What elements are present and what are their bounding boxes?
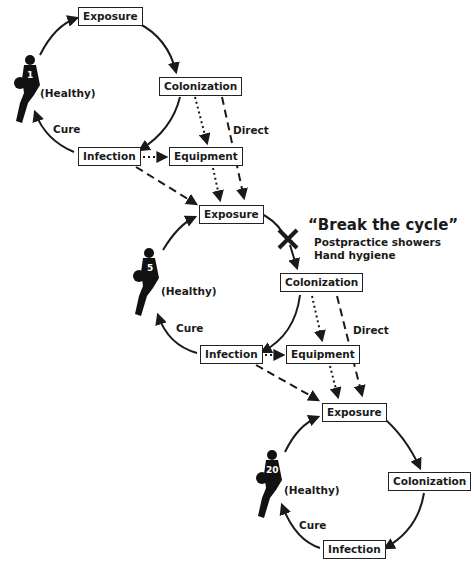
exposure-box: Exposure — [322, 403, 387, 422]
break-cycle-item: Postpractice showers — [314, 235, 441, 249]
direct-label: Direct — [353, 324, 389, 336]
break-x-icon — [279, 230, 297, 248]
break-cycle-item: Hand hygiene — [314, 248, 396, 262]
colonization-box: Colonization — [280, 273, 363, 292]
cure-label: Cure — [53, 123, 80, 135]
cure-label: Cure — [299, 519, 326, 531]
healthy-label: (Healthy) — [161, 285, 217, 297]
exposure-box: Exposure — [199, 205, 264, 224]
cure-label: Cure — [176, 322, 203, 334]
direct-label: Direct — [233, 124, 269, 136]
exposure-box: Exposure — [78, 7, 143, 26]
break-cycle-title: “Break the cycle” — [308, 216, 458, 234]
infection-box: Infection — [323, 540, 386, 559]
infection-box: Infection — [78, 147, 141, 166]
colonization-box: Colonization — [388, 472, 471, 491]
infection-box: Infection — [200, 345, 263, 364]
colonization-box: Colonization — [159, 77, 242, 96]
healthy-label: (Healthy) — [40, 87, 96, 99]
jersey-number: 20 — [266, 465, 279, 475]
equipment-box: Equipment — [169, 147, 243, 166]
equipment-box: Equipment — [286, 345, 360, 364]
jersey-number: 5 — [147, 263, 153, 273]
jersey-number: 1 — [27, 70, 33, 80]
healthy-label: (Healthy) — [284, 484, 340, 496]
